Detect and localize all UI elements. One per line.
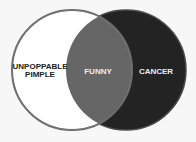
venn-diagram: UNPOPPABLE PIMPLE FUNNY CANCER bbox=[0, 0, 196, 142]
cancer-label: CANCER bbox=[139, 67, 173, 76]
intersection-label: FUNNY bbox=[84, 67, 112, 76]
pimple-label-line2: PIMPLE bbox=[25, 70, 55, 79]
